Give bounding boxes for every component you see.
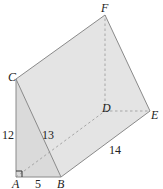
prism-diagram: A B C D E F 12 5 13 14 bbox=[0, 0, 163, 189]
length-ac: 12 bbox=[2, 128, 14, 142]
vertex-label-d: D bbox=[101, 101, 111, 115]
length-ab: 5 bbox=[35, 177, 41, 189]
vertex-label-b: B bbox=[57, 177, 65, 189]
prism-figure: A B C D E F 12 5 13 14 bbox=[0, 0, 163, 189]
vertex-label-f: F bbox=[100, 1, 109, 15]
vertex-label-a: A bbox=[11, 177, 20, 189]
vertex-label-e: E bbox=[150, 108, 159, 122]
length-be: 14 bbox=[109, 143, 121, 157]
length-bc: 13 bbox=[42, 128, 54, 142]
vertex-label-c: C bbox=[8, 70, 17, 84]
